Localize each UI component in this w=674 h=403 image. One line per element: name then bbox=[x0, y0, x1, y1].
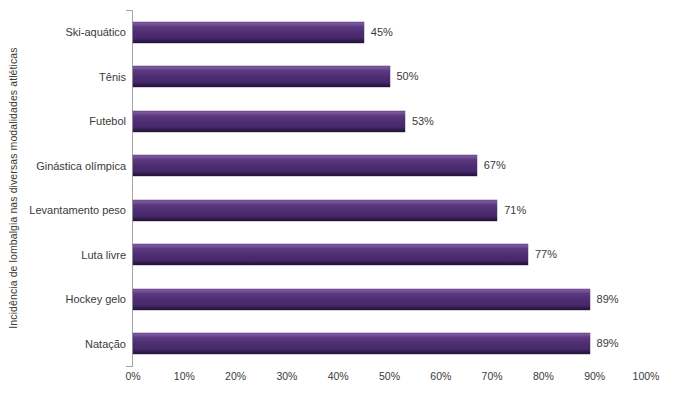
category-label: Ginástica olímpica bbox=[2, 144, 126, 189]
x-axis-tick-label: 0% bbox=[125, 370, 140, 382]
x-axis-tick-label: 90% bbox=[584, 370, 605, 382]
x-axis-tick-label: 100% bbox=[633, 370, 660, 382]
y-axis-bottom-tick bbox=[126, 366, 133, 367]
bar bbox=[133, 289, 590, 310]
bar-value-label: 45% bbox=[364, 22, 393, 43]
bar bbox=[133, 155, 477, 176]
category-label-text: Luta livre bbox=[81, 249, 126, 261]
bar bbox=[133, 66, 390, 87]
y-axis-top-tick bbox=[126, 10, 133, 11]
bar-row: Tênis50% bbox=[133, 55, 646, 100]
x-axis-tick-label: 30% bbox=[276, 370, 297, 382]
bar bbox=[133, 22, 364, 43]
x-axis-tick-label: 10% bbox=[174, 370, 195, 382]
bar-row: Futebol53% bbox=[133, 99, 646, 144]
x-axis-tick-label: 70% bbox=[482, 370, 503, 382]
bar-value-label: 50% bbox=[390, 66, 419, 87]
category-label-text: Hockey gelo bbox=[65, 293, 126, 305]
bar bbox=[133, 111, 405, 132]
category-label: Ski-aquático bbox=[2, 10, 126, 55]
category-label-text: Tênis bbox=[99, 71, 126, 83]
bar-row: Ginástica olímpica67% bbox=[133, 144, 646, 189]
bar bbox=[133, 200, 497, 221]
bar-row: Levantamento peso71% bbox=[133, 188, 646, 233]
plot-area: Ski-aquático45%Tênis50%Futebol53%Ginásti… bbox=[133, 10, 646, 366]
bar bbox=[133, 333, 590, 354]
x-axis-tick-label: 60% bbox=[430, 370, 451, 382]
x-axis-tick-label: 80% bbox=[533, 370, 554, 382]
category-label-text: Ginástica olímpica bbox=[36, 160, 126, 172]
bar-value-label: 67% bbox=[477, 155, 506, 176]
bar-row: Hockey gelo89% bbox=[133, 277, 646, 322]
bar-row: Luta livre77% bbox=[133, 233, 646, 278]
bar-row: Natação89% bbox=[133, 322, 646, 367]
category-label: Luta livre bbox=[2, 233, 126, 278]
bar-row: Ski-aquático45% bbox=[133, 10, 646, 55]
category-label: Futebol bbox=[2, 99, 126, 144]
category-label-text: Natação bbox=[85, 338, 126, 350]
x-axis-tick-label: 40% bbox=[328, 370, 349, 382]
x-axis-tick-label: 50% bbox=[379, 370, 400, 382]
x-axis: 0%10%20%30%40%50%60%70%80%90%100% bbox=[133, 370, 646, 392]
category-label-text: Ski-aquático bbox=[65, 26, 126, 38]
bar-value-label: 89% bbox=[590, 333, 619, 354]
bar-chart: Incidência de lombalgia nas diversas mod… bbox=[0, 0, 674, 403]
bar-value-label: 53% bbox=[405, 111, 434, 132]
bar-value-label: 77% bbox=[528, 244, 557, 265]
category-label: Hockey gelo bbox=[2, 277, 126, 322]
category-label: Tênis bbox=[2, 55, 126, 100]
category-label-text: Levantamento peso bbox=[29, 204, 126, 216]
category-label: Natação bbox=[2, 322, 126, 367]
category-label: Levantamento peso bbox=[2, 188, 126, 233]
bar-value-label: 71% bbox=[497, 200, 526, 221]
x-axis-tick-label: 20% bbox=[225, 370, 246, 382]
category-label-text: Futebol bbox=[89, 115, 126, 127]
bar bbox=[133, 244, 528, 265]
bar-value-label: 89% bbox=[590, 289, 619, 310]
